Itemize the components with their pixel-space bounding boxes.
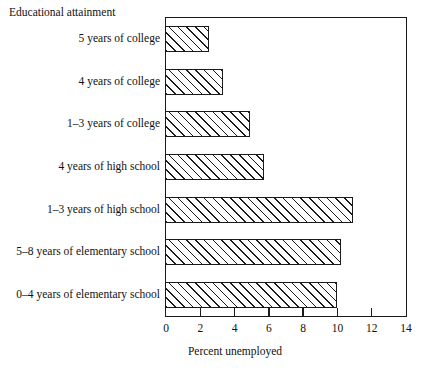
bar: [166, 154, 264, 180]
category-label: 4 years of high school: [0, 160, 160, 172]
tick-label: 2: [197, 322, 203, 334]
tick-label: 12: [366, 322, 378, 334]
bar-row: [166, 111, 406, 137]
bar-row: [166, 26, 406, 52]
bar-row: [166, 282, 406, 308]
bar-row: [166, 154, 406, 180]
bar: [166, 197, 353, 223]
tick-mark: [371, 308, 372, 316]
tick-mark: [302, 308, 303, 316]
tick-label: 6: [266, 322, 272, 334]
category-label: 0–4 years of elementary school: [0, 288, 160, 300]
tick-mark: [268, 308, 269, 316]
bar-row: [166, 239, 406, 265]
category-label: 1–3 years of high school: [0, 203, 160, 215]
bar: [166, 69, 223, 95]
x-axis-title: Percent unemployed: [0, 345, 422, 357]
x-axis-title-text: Percent unemployed: [188, 345, 282, 357]
bar: [166, 239, 341, 265]
category-label: 1–3 years of college: [0, 117, 160, 129]
tick-label: 0: [163, 322, 169, 334]
tick-mark: [234, 308, 235, 316]
tick-label: 8: [300, 322, 306, 334]
bar: [166, 282, 337, 308]
tick-label: 10: [332, 322, 344, 334]
y-axis-title: Educational attainment: [9, 6, 115, 19]
category-label: 4 years of college: [0, 75, 160, 87]
tick-label: 14: [400, 322, 412, 334]
bar: [166, 111, 250, 137]
bar-row: [166, 197, 406, 223]
tick-mark: [337, 308, 338, 316]
tick-label: 4: [232, 322, 238, 334]
bar-row: [166, 69, 406, 95]
tick-mark: [200, 308, 201, 316]
category-label: 5 years of college: [0, 32, 160, 44]
bar: [166, 26, 209, 52]
bar-chart: Educational attainment 5 years of colleg…: [0, 0, 422, 370]
bars-layer: [166, 18, 406, 316]
category-label: 5–8 years of elementary school: [0, 245, 160, 257]
